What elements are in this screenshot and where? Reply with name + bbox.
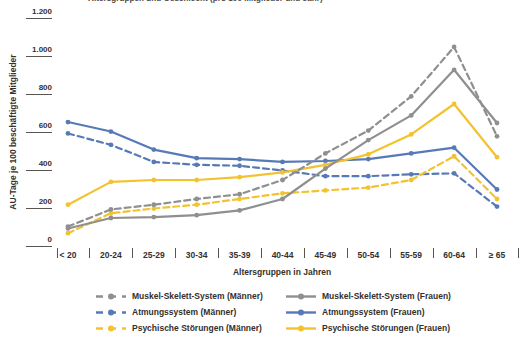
legend-marker-icon — [96, 324, 126, 333]
x-axis-separator — [304, 248, 305, 258]
data-point-psychische-stoerungen-maenner — [323, 188, 328, 193]
data-point-atmungssystem-frauen — [151, 147, 156, 152]
x-axis-label: 25-29 — [132, 250, 175, 260]
line-chart: Altersgruppen und Geschlecht (pro 100 Mi… — [0, 0, 532, 344]
data-point-psychische-stoerungen-frauen — [409, 132, 414, 137]
data-point-psychische-stoerungen-maenner — [495, 197, 500, 202]
data-point-psychische-stoerungen-frauen — [495, 155, 500, 160]
data-point-atmungssystem-frauen — [237, 157, 242, 162]
data-point-atmungssystem-maenner — [194, 162, 199, 167]
x-axis-label: < 20 — [47, 250, 90, 260]
data-point-muskel-skelett-system-maenner — [409, 94, 414, 99]
data-point-atmungssystem-frauen — [194, 156, 199, 161]
data-point-muskel-skelett-system-frauen — [151, 215, 156, 220]
x-axis-label: 45-49 — [304, 250, 347, 260]
x-axis-label: 40-44 — [261, 250, 304, 260]
x-axis-separator — [261, 248, 262, 258]
data-point-muskel-skelett-system-maenner — [366, 128, 371, 133]
data-point-muskel-skelett-system-frauen — [323, 166, 328, 171]
x-axis-separator — [390, 248, 391, 258]
data-point-muskel-skelett-system-maenner — [109, 207, 114, 212]
data-point-atmungssystem-frauen — [66, 120, 71, 125]
x-axis-separator — [175, 248, 176, 258]
legend-label: Atmungssystem (Frauen) — [322, 307, 425, 317]
data-point-psychische-stoerungen-maenner — [452, 154, 457, 159]
x-axis-title: Altersgruppen in Jahren — [182, 267, 382, 277]
x-axis-separator — [218, 248, 219, 258]
legend-marker-icon — [96, 308, 126, 317]
data-point-psychische-stoerungen-frauen — [280, 170, 285, 175]
x-axis-separator — [518, 248, 519, 258]
data-point-psychische-stoerungen-maenner — [280, 191, 285, 196]
data-point-psychische-stoerungen-maenner — [237, 197, 242, 202]
data-point-atmungssystem-frauen — [409, 151, 414, 156]
data-point-psychische-stoerungen-maenner — [409, 178, 414, 183]
legend-label: Muskel-Skelett-System (Frauen) — [322, 291, 451, 301]
x-axis-label: 50-54 — [347, 250, 390, 260]
data-point-atmungssystem-maenner — [366, 174, 371, 179]
data-point-psychische-stoerungen-frauen — [366, 152, 371, 157]
data-point-atmungssystem-frauen — [280, 160, 285, 165]
data-point-muskel-skelett-system-frauen — [280, 197, 285, 202]
data-point-psychische-stoerungen-frauen — [452, 102, 457, 107]
data-point-atmungssystem-maenner — [495, 204, 500, 209]
legend-row: Muskel-Skelett-System (Männer)Muskel-Ske… — [96, 288, 451, 304]
legend-label: Muskel-Skelett-System (Männer) — [132, 291, 263, 301]
legend-item-muskel-skelett-system-frauen: Muskel-Skelett-System (Frauen) — [286, 291, 451, 301]
data-point-muskel-skelett-system-frauen — [109, 216, 114, 221]
data-point-muskel-skelett-system-maenner — [151, 202, 156, 207]
x-axis-label: 60-64 — [433, 250, 476, 260]
data-point-muskel-skelett-system-frauen — [366, 138, 371, 143]
x-axis-label: 30-34 — [175, 250, 218, 260]
legend-item-atmungssystem-maenner: Atmungssystem (Männer) — [96, 307, 286, 317]
data-point-muskel-skelett-system-frauen — [452, 67, 457, 72]
data-point-psychische-stoerungen-maenner — [194, 202, 199, 207]
data-point-muskel-skelett-system-maenner — [237, 192, 242, 197]
data-point-psychische-stoerungen-maenner — [366, 185, 371, 190]
legend-label: Psychische Störungen (Frauen) — [322, 323, 450, 333]
data-point-psychische-stoerungen-frauen — [109, 180, 114, 185]
data-point-muskel-skelett-system-maenner — [280, 178, 285, 183]
data-point-atmungssystem-frauen — [495, 187, 500, 192]
x-axis-separator — [433, 248, 434, 258]
data-point-muskel-skelett-system-maenner — [495, 134, 500, 139]
data-point-atmungssystem-maenner — [151, 160, 156, 165]
data-point-muskel-skelett-system-maenner — [194, 197, 199, 202]
data-point-psychische-stoerungen-maenner — [66, 231, 71, 236]
legend-marker-icon — [286, 324, 316, 333]
x-axis-separator — [476, 248, 477, 258]
x-axis-separator — [89, 248, 90, 258]
x-axis-separator — [132, 248, 133, 258]
legend-row: Psychische Störungen (Männer)Psychische … — [96, 320, 451, 336]
data-point-atmungssystem-maenner — [409, 172, 414, 177]
legend-item-muskel-skelett-system-maenner: Muskel-Skelett-System (Männer) — [96, 291, 286, 301]
data-point-muskel-skelett-system-frauen — [409, 113, 414, 118]
legend-label: Atmungssystem (Männer) — [132, 307, 236, 317]
legend-marker-icon — [286, 308, 316, 317]
x-axis-label: ≥ 65 — [476, 250, 519, 260]
data-point-muskel-skelett-system-maenner — [323, 151, 328, 156]
data-point-atmungssystem-maenner — [323, 174, 328, 179]
data-point-muskel-skelett-system-frauen — [495, 121, 500, 126]
x-axis-separator — [57, 248, 58, 258]
x-axis-label: 20-24 — [89, 250, 132, 260]
x-axis-separator — [347, 248, 348, 258]
data-point-muskel-skelett-system-frauen — [194, 213, 199, 218]
data-point-atmungssystem-maenner — [237, 163, 242, 168]
legend-row: Atmungssystem (Männer)Atmungssystem (Fra… — [96, 304, 451, 320]
data-point-muskel-skelett-system-frauen — [237, 208, 242, 213]
legend: Muskel-Skelett-System (Männer)Muskel-Ske… — [96, 288, 451, 336]
data-point-atmungssystem-maenner — [109, 142, 114, 147]
data-point-psychische-stoerungen-frauen — [237, 175, 242, 180]
data-point-psychische-stoerungen-frauen — [66, 202, 71, 207]
x-axis-label: 55-59 — [390, 250, 433, 260]
legend-item-atmungssystem-frauen: Atmungssystem (Frauen) — [286, 307, 425, 317]
data-point-atmungssystem-frauen — [366, 157, 371, 162]
legend-item-psychische-stoerungen-maenner: Psychische Störungen (Männer) — [96, 323, 286, 333]
legend-marker-icon — [96, 292, 126, 301]
data-point-psychische-stoerungen-frauen — [151, 178, 156, 183]
data-point-atmungssystem-maenner — [452, 171, 457, 176]
data-point-muskel-skelett-system-frauen — [66, 226, 71, 231]
data-point-atmungssystem-frauen — [452, 145, 457, 150]
legend-label: Psychische Störungen (Männer) — [132, 323, 262, 333]
